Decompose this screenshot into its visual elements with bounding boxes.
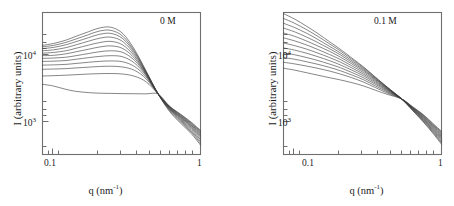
x-tick-label-0.1-left: 0.1	[44, 158, 56, 168]
data-curve	[43, 84, 201, 130]
y-tick-mantissa: 10	[23, 118, 33, 128]
y-major-ticks-right	[284, 55, 290, 122]
curve-group-right	[284, 14, 442, 145]
plot-svg-left	[0, 0, 227, 206]
x-axis-label-tail: )	[119, 185, 123, 196]
data-curve	[43, 37, 201, 140]
data-curve	[43, 46, 201, 137]
data-curve	[284, 48, 442, 135]
data-curve	[43, 66, 201, 132]
data-curve	[43, 30, 201, 143]
x-minor-ticks-right	[290, 151, 434, 155]
y-tick-label-1e4-right: 104	[261, 49, 291, 61]
y-tick-label-1e4-left: 104	[6, 49, 36, 61]
y-tick-mantissa: 10	[278, 51, 288, 61]
x-minor-ticks-left	[49, 151, 193, 155]
figure-container: I (arbitrary units) 104 103 0.1 1 q (nm-…	[0, 0, 454, 206]
x-axis-label-text: q (nm	[88, 185, 113, 196]
y-tick-mantissa: 10	[278, 118, 288, 128]
x-tick-label-0.1-right: 0.1	[302, 158, 314, 168]
y-axis-label-right: I (arbitrary units)	[267, 29, 278, 149]
plot-svg-right	[227, 0, 454, 206]
x-tick-label-1-left: 1	[197, 158, 202, 168]
y-major-ticks-left	[43, 55, 49, 122]
x-axis-label-left: q (nm-1)	[0, 183, 219, 196]
data-curve	[43, 56, 201, 135]
curve-group-left	[43, 27, 201, 145]
axis-frame-left	[43, 13, 201, 155]
y-tick-label-1e3-left: 103	[6, 116, 36, 128]
y-tick-exponent: 4	[288, 49, 292, 57]
x-tick-label-1-right: 1	[438, 158, 443, 168]
y-tick-mantissa: 10	[23, 51, 33, 61]
x-axis-label-text: q (nm	[349, 185, 374, 196]
data-curve	[284, 14, 442, 145]
y-minor-ticks-left	[43, 35, 47, 147]
data-curve	[284, 68, 442, 131]
y-tick-exponent: 3	[33, 116, 37, 124]
x-major-ticks-right	[294, 149, 442, 155]
y-tick-exponent: 3	[288, 116, 292, 124]
data-curve	[43, 74, 201, 132]
y-tick-exponent: 4	[33, 49, 37, 57]
panel-tag-0m: 0 M	[160, 16, 176, 26]
data-curve	[43, 33, 201, 141]
y-tick-label-1e3-right: 103	[261, 116, 291, 128]
panel-tag-01m: 0.1 M	[374, 16, 397, 26]
data-curve	[43, 51, 201, 136]
x-major-ticks-left	[53, 149, 201, 155]
x-axis-label-right: q (nm-1)	[253, 183, 454, 196]
data-curve	[284, 53, 442, 135]
panel-01m: I (arbitrary units) 104 103 0.1 1 q (nm-…	[227, 0, 454, 206]
data-curve	[43, 61, 201, 133]
panel-0m: I (arbitrary units) 104 103 0.1 1 q (nm-…	[0, 0, 227, 206]
y-axis-label-left: I (arbitrary units)	[12, 29, 23, 149]
data-curve	[284, 38, 442, 138]
x-axis-label-tail: )	[380, 185, 384, 196]
data-curve	[284, 43, 442, 137]
